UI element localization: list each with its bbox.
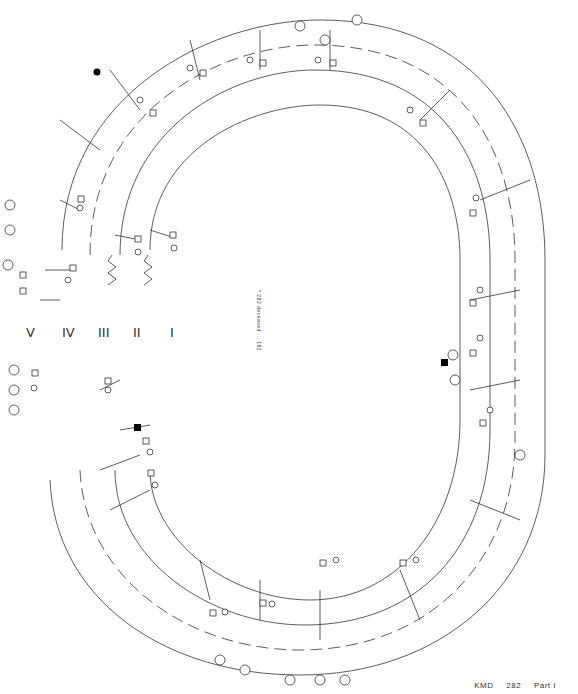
caption-id: KMD [474,681,493,690]
zigzag-left [108,255,116,285]
center-annotation: * 282 deceased ... 182 [256,290,262,351]
proband-affected-square [134,424,141,431]
generation-marker-iii: III [98,325,110,340]
caption-part: Part I [534,681,556,690]
inner-ring [150,105,460,600]
generation-marker-v: V [26,325,35,340]
generation-marker-i: I [170,325,174,340]
document-caption: KMD 282 Part I [464,681,556,690]
caption-number: 282 [506,681,521,690]
second-ring [115,70,490,625]
generation-marker-iv: IV [62,325,75,340]
branch-lines [40,30,530,640]
dashed-ring [80,45,515,650]
zigzag-right [144,255,152,285]
pedigree-diagram [0,0,578,694]
generation-marker-ii: II [133,325,141,340]
